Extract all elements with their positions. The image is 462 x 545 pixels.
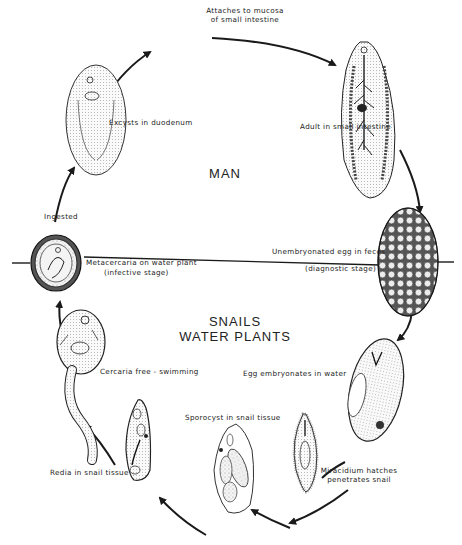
label-unembryonated-egg: Unembryonated egg in feces (272, 247, 385, 256)
label-ingested: Ingested (44, 212, 78, 221)
metacercaria-drawing (31, 235, 81, 291)
label-metacercaria: Metacercaria on water plant (86, 258, 197, 267)
label-sporocyst: Sporocyst in snail tissue (185, 413, 281, 422)
adult-fluke-drawing (341, 42, 394, 198)
label-line: Miracidium hatches (314, 466, 404, 475)
label-egg-embryonates: Egg embryonates in water (243, 369, 347, 378)
label-excysts: Excysts in duodenum (109, 118, 193, 127)
zone-label-water-plants: WATER PLANTS (170, 329, 300, 344)
label-attaches-mucosa: Attaches to mucosa of small intestine (190, 6, 300, 24)
redia-drawing (126, 400, 151, 481)
label-line: of small intestine (190, 15, 300, 24)
life-cycle-diagram: MAN SNAILS WATER PLANTS Attaches to muco… (0, 0, 462, 545)
label-infective-stage: (infective stage) (104, 268, 169, 277)
sporocyst-drawing (214, 424, 254, 513)
label-adult: Adult in small intestine (300, 122, 391, 131)
unembryonated-egg-drawing (378, 208, 438, 316)
label-cercaria: Cercaria free - swimming (100, 367, 199, 376)
diagram-artwork (0, 0, 462, 545)
label-redia: Redia in snail tissue (50, 468, 129, 477)
cercaria-drawing (57, 310, 105, 460)
zone-label-man: MAN (200, 166, 250, 181)
embryonated-egg-drawing (340, 334, 412, 447)
label-diagnostic-stage: (diagnostic stage) (305, 264, 376, 273)
zone-label-snails: SNAILS (185, 314, 285, 329)
label-line: Attaches to mucosa (190, 6, 300, 15)
label-miracidium: Miracidium hatches penetrates snail (314, 466, 404, 484)
label-line: penetrates snail (314, 475, 404, 484)
